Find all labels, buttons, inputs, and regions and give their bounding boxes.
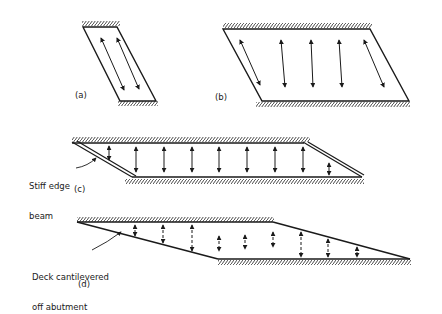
annotation-line-1: Deck cantilevered <box>32 272 109 282</box>
panel-c <box>72 137 364 184</box>
annotation-leader <box>92 232 121 250</box>
support-top-hatch <box>72 137 310 142</box>
slab-outline <box>83 27 156 101</box>
support-top-hatch <box>77 217 274 222</box>
slab-right-edge <box>273 222 410 259</box>
span-arrow <box>364 40 384 87</box>
stiff-edge-beam-left <box>77 141 136 176</box>
panel-label-a: (a) <box>75 90 87 100</box>
support-bottom-hatch <box>256 102 410 107</box>
stiff-edge-beam-right <box>303 142 362 177</box>
support-top-hatch <box>82 21 120 26</box>
panel-d <box>77 217 411 265</box>
support-bottom-hatch <box>218 260 411 265</box>
stiff-edge-beam-left <box>72 142 132 177</box>
support-top-hatch <box>223 23 372 28</box>
span-arrow <box>281 40 285 87</box>
panel-label-c: (c) <box>74 184 85 194</box>
span-arrow <box>339 40 342 87</box>
panel-b <box>223 23 410 107</box>
annotation-stiff-edge-beam: Stiff edge beam <box>29 161 70 231</box>
stiff-edge-beam-right <box>308 142 364 175</box>
panel-label-b: (b) <box>215 92 227 102</box>
annotation-deck-cantilevered: Deck cantilevered off abutment <box>32 252 109 314</box>
annotation-line-2: off abutment <box>32 302 109 312</box>
annotation-line-2: beam <box>29 211 70 221</box>
panel-a <box>82 21 158 106</box>
annotation-leader <box>76 158 96 168</box>
support-bottom-hatch <box>125 179 364 184</box>
annotation-line-1: Stiff edge <box>29 181 70 191</box>
support-bottom-hatch <box>118 101 158 106</box>
span-arrow <box>311 40 313 87</box>
